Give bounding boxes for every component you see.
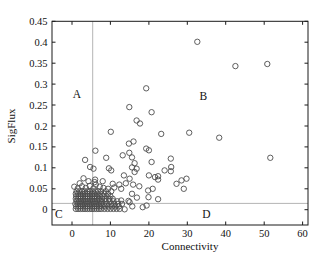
data-point <box>129 191 134 196</box>
data-point <box>268 155 273 160</box>
data-point <box>121 173 126 178</box>
x-tick-label: 30 <box>182 228 193 239</box>
y-tick-label: 0.15 <box>29 141 47 152</box>
data-point <box>137 184 142 189</box>
data-point <box>144 86 149 91</box>
data-point <box>179 178 184 183</box>
data-point <box>81 176 86 181</box>
data-point <box>265 61 270 66</box>
data-point <box>137 121 142 126</box>
data-point <box>130 204 135 209</box>
data-point <box>127 176 132 181</box>
scatter-plot-canvas: 010203040506000.050.10.150.20.250.30.350… <box>0 0 324 265</box>
x-axis-title: Connectivity <box>162 240 219 252</box>
data-point <box>100 179 105 184</box>
y-tick-label: 0 <box>42 204 47 215</box>
data-point <box>134 118 139 123</box>
data-point <box>149 110 154 115</box>
x-tick-label: 40 <box>220 228 231 239</box>
data-point <box>145 188 150 193</box>
x-tick-label: 50 <box>259 228 270 239</box>
data-point <box>174 181 179 186</box>
data-point <box>146 173 151 178</box>
quadrant-label-C: C <box>55 208 63 220</box>
x-tick-label: 60 <box>297 228 308 239</box>
data-point <box>217 135 222 140</box>
y-tick-label: 0.35 <box>29 58 47 69</box>
data-point <box>129 155 134 160</box>
data-point <box>134 195 139 200</box>
data-point <box>162 168 167 173</box>
data-point <box>127 104 132 109</box>
data-point <box>155 197 160 202</box>
data-point <box>149 159 154 164</box>
y-tick-label: 0.1 <box>34 162 47 173</box>
data-point <box>168 156 173 161</box>
data-point <box>233 63 238 68</box>
y-tick-label: 0.05 <box>29 183 47 194</box>
y-tick-label: 0.25 <box>29 100 47 111</box>
data-point <box>108 129 113 134</box>
data-point <box>104 155 109 160</box>
data-point <box>195 39 200 44</box>
data-point <box>123 181 128 186</box>
data-point <box>119 198 124 203</box>
quadrant-label-A: A <box>73 88 82 100</box>
data-point <box>130 182 135 187</box>
y-axis-title: SigFlux <box>5 109 17 144</box>
y-tick-label: 0.3 <box>34 79 47 90</box>
data-point <box>126 141 131 146</box>
y-tick-label: 0.2 <box>34 121 47 132</box>
x-tick-label: 10 <box>105 228 116 239</box>
y-tick-label: 0.45 <box>29 16 47 27</box>
data-point <box>120 153 125 158</box>
data-point <box>93 148 98 153</box>
x-tick-label: 0 <box>69 228 74 239</box>
quadrant-label-D: D <box>202 208 210 220</box>
data-point <box>82 157 87 162</box>
x-tick-label: 20 <box>144 228 155 239</box>
quadrant-label-B: B <box>200 90 208 102</box>
data-point <box>181 186 186 191</box>
data-point <box>146 195 151 200</box>
data-point <box>187 130 192 135</box>
y-tick-label: 0.4 <box>34 37 48 48</box>
data-point <box>159 131 164 136</box>
scatter-figure: 010203040506000.050.10.150.20.250.30.350… <box>0 0 324 265</box>
data-point <box>126 198 131 203</box>
